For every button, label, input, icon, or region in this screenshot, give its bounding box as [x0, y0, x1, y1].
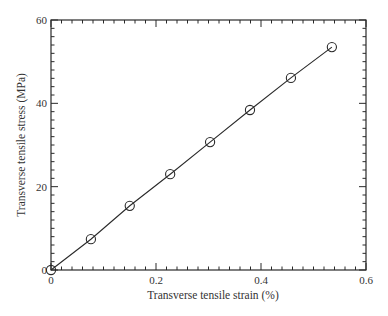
axis-tick-labels: 00.20.40.60204060: [36, 14, 373, 286]
stress-strain-chart: 00.20.40.60204060 Transverse tensile str…: [0, 0, 388, 316]
series-line: [51, 47, 332, 270]
y-tick-label: 60: [36, 14, 48, 26]
x-tick-label: 0.2: [149, 274, 163, 286]
y-tick-label: 20: [36, 181, 48, 193]
x-tick-label: 0.4: [254, 274, 268, 286]
x-axis-title: Transverse tensile strain (%): [147, 289, 279, 302]
y-tick-label: 40: [36, 97, 48, 109]
data-series: [46, 42, 336, 274]
x-tick-label: 0.6: [359, 274, 373, 286]
x-tick-label: 0: [48, 274, 54, 286]
y-axis-title: Transverse tensile stress (MPa): [15, 73, 28, 217]
